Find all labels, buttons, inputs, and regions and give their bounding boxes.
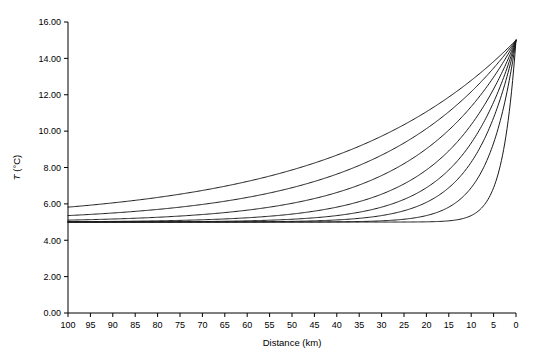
x-tick-label: 40	[332, 320, 342, 330]
x-tick-label: 95	[85, 320, 95, 330]
data-curve-decay-length-6km	[68, 40, 516, 222]
data-curve-decay-length-30km	[68, 40, 516, 215]
y-tick-label: 16.00	[38, 17, 61, 27]
y-axis-title-units: (°C)	[11, 155, 22, 175]
x-axis-title: Distance (km)	[263, 337, 322, 348]
y-tick-label: 4.00	[43, 236, 61, 246]
figure-container: 0.002.004.006.008.0010.0012.0014.0016.00…	[0, 0, 554, 352]
data-curve-decay-length-12km	[68, 40, 516, 222]
y-tick-label: 6.00	[43, 199, 61, 209]
data-curve-decay-length-9km	[68, 40, 516, 222]
axis-tick-marks	[64, 22, 516, 317]
data-curve-decay-length-22km	[68, 40, 516, 220]
data-curve-decay-length-3km	[68, 40, 516, 222]
x-tick-label: 50	[287, 320, 297, 330]
x-tick-label: 65	[220, 320, 230, 330]
x-tick-label: 10	[466, 320, 476, 330]
x-tick-label: 20	[421, 320, 431, 330]
x-tick-label: 80	[153, 320, 163, 330]
x-tick-label: 90	[108, 320, 118, 330]
data-curves	[68, 40, 516, 222]
x-tick-label: 100	[60, 320, 75, 330]
y-tick-label: 12.00	[38, 90, 61, 100]
chart-canvas: 0.002.004.006.008.0010.0012.0014.0016.00…	[0, 0, 554, 352]
y-tick-label: 0.00	[43, 308, 61, 318]
y-tick-label: 10.00	[38, 126, 61, 136]
x-tick-label: 55	[265, 320, 275, 330]
x-tick-label: 60	[242, 320, 252, 330]
data-curve-decay-length-40km	[68, 40, 516, 207]
data-curve-decay-length-16km	[68, 40, 516, 222]
x-tick-label: 30	[377, 320, 387, 330]
x-tick-label: 85	[130, 320, 140, 330]
x-tick-label: 70	[197, 320, 207, 330]
axis-lines	[68, 22, 516, 313]
x-axis-tick-labels: 1009590858075706560555045403530252015105…	[60, 320, 518, 330]
x-tick-label: 0	[513, 320, 518, 330]
x-tick-label: 75	[175, 320, 185, 330]
y-axis-tick-labels: 0.002.004.006.008.0010.0012.0014.0016.00	[38, 17, 61, 318]
x-tick-label: 25	[399, 320, 409, 330]
y-tick-label: 2.00	[43, 272, 61, 282]
y-tick-label: 8.00	[43, 163, 61, 173]
y-tick-label: 14.00	[38, 54, 61, 64]
x-tick-label: 15	[444, 320, 454, 330]
x-tick-label: 5	[491, 320, 496, 330]
y-axis-title: T (°C)	[11, 155, 22, 180]
x-tick-label: 35	[354, 320, 364, 330]
x-tick-label: 45	[309, 320, 319, 330]
